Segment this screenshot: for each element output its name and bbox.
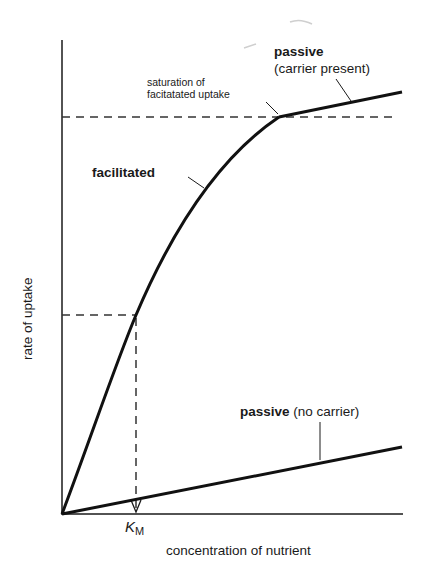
saturation-label: saturation of facitatated uptake [147,76,230,100]
saturation-leader [266,102,278,114]
passive-no-carrier-label: passive (no carrier) [240,405,359,419]
x-axis-label: concentration of nutrient [166,544,311,558]
km-label-main: K [125,518,135,535]
y-axis-label: rate of uptake [20,277,35,360]
saturation-label-line1: saturation of [147,76,230,88]
passive-no-carrier-line [62,447,402,514]
passive-no-carrier-label-paren: (no carrier) [293,404,359,419]
passive-carrier-label-paren: (carrier present) [274,62,370,76]
facilitated-leader [188,177,204,188]
uptake-kinetics-figure: rate of uptake concentration of nutrient… [0,0,431,577]
passive-carrier-leader [336,79,351,101]
passive-carrier-label: passive (carrier present) [274,45,370,75]
passive-no-carrier-label-bold: passive [240,404,290,419]
passive-carrier-line [279,92,402,117]
saturation-label-line2: facitatated uptake [147,88,230,100]
facilitated-label: facilitated [92,166,155,180]
km-label-sub: M [135,525,144,537]
km-label: KM [125,519,144,537]
passive-carrier-label-bold: passive [274,45,370,59]
